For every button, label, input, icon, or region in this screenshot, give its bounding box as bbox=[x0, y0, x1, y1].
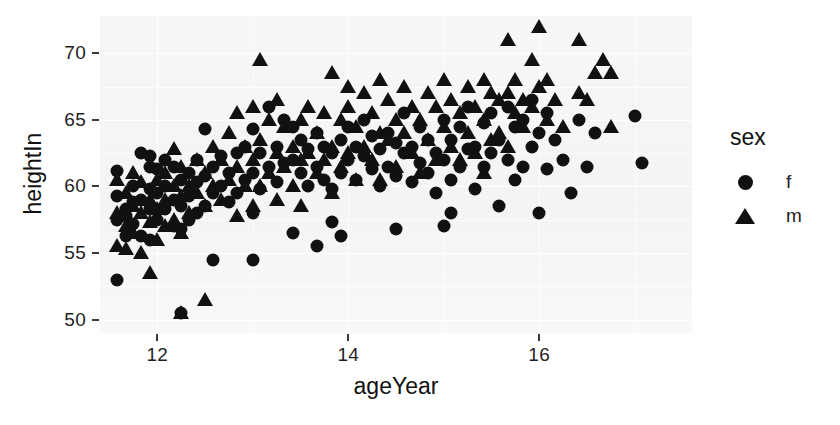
data-point-m bbox=[356, 138, 372, 152]
data-point-m bbox=[309, 125, 325, 139]
y-tick-mark bbox=[92, 119, 99, 121]
data-point-m bbox=[293, 198, 309, 212]
data-point-f bbox=[390, 223, 403, 236]
x-tick-label: 14 bbox=[337, 344, 359, 366]
data-point-f bbox=[445, 207, 458, 220]
data-point-m bbox=[166, 141, 182, 155]
data-point-f bbox=[310, 240, 323, 253]
data-point-m bbox=[157, 165, 173, 179]
data-point-m bbox=[587, 65, 603, 79]
data-point-m bbox=[388, 158, 404, 172]
data-point-m bbox=[189, 152, 205, 166]
data-point-m bbox=[324, 138, 340, 152]
data-point-m bbox=[309, 165, 325, 179]
data-point-m bbox=[340, 78, 356, 92]
x-axis-title: ageYear bbox=[100, 373, 692, 400]
data-point-m bbox=[269, 192, 285, 206]
data-point-m bbox=[603, 118, 619, 132]
data-point-f bbox=[557, 153, 570, 166]
data-point-m bbox=[118, 241, 134, 255]
data-point-m bbox=[404, 145, 420, 159]
plot-panel bbox=[100, 16, 692, 333]
data-point-m bbox=[245, 198, 261, 212]
data-point-m bbox=[364, 105, 380, 119]
data-point-f bbox=[493, 200, 506, 213]
gridline-y-minor bbox=[100, 286, 692, 287]
data-point-f bbox=[430, 187, 443, 200]
data-point-f bbox=[573, 113, 586, 126]
data-point-m bbox=[173, 225, 189, 239]
data-point-m bbox=[547, 92, 563, 106]
data-point-m bbox=[443, 92, 459, 106]
legend-title: sex bbox=[730, 124, 834, 151]
data-point-m bbox=[571, 85, 587, 99]
data-point-m bbox=[507, 72, 523, 86]
data-point-m bbox=[213, 192, 229, 206]
data-point-m bbox=[476, 112, 492, 126]
data-point-m bbox=[237, 178, 253, 192]
data-point-m bbox=[149, 232, 165, 246]
data-point-m bbox=[269, 92, 285, 106]
data-point-f bbox=[326, 216, 339, 229]
data-point-m bbox=[467, 145, 483, 159]
data-point-m bbox=[205, 178, 221, 192]
data-point-f bbox=[135, 147, 148, 160]
x-tick-label: 16 bbox=[528, 344, 550, 366]
data-point-m bbox=[460, 125, 476, 139]
triangle-marker-icon bbox=[728, 199, 762, 233]
data-point-m bbox=[420, 132, 436, 146]
data-point-f bbox=[334, 229, 347, 242]
y-tick-mark bbox=[92, 52, 99, 54]
legend-label-m: m bbox=[786, 205, 802, 227]
legend-label-f: f bbox=[786, 171, 791, 193]
data-point-m bbox=[412, 112, 428, 126]
data-point-m bbox=[269, 145, 285, 159]
data-point-f bbox=[206, 253, 219, 266]
data-point-m bbox=[109, 205, 125, 219]
data-point-m bbox=[276, 158, 292, 172]
data-point-m bbox=[261, 112, 277, 126]
data-point-f bbox=[286, 227, 299, 240]
y-tick-mark bbox=[92, 185, 99, 187]
data-point-m bbox=[293, 112, 309, 126]
data-point-m bbox=[539, 72, 555, 86]
data-point-m bbox=[524, 52, 540, 66]
legend-item-f[interactable]: f bbox=[728, 165, 834, 199]
x-tick-mark bbox=[538, 334, 540, 341]
data-point-m bbox=[524, 98, 540, 112]
data-point-f bbox=[540, 163, 553, 176]
data-point-m bbox=[205, 138, 221, 152]
data-point-m bbox=[125, 225, 141, 239]
data-point-f bbox=[469, 183, 482, 196]
data-point-f bbox=[302, 180, 315, 193]
legend-item-m[interactable]: m bbox=[728, 199, 834, 233]
data-point-f bbox=[636, 156, 649, 169]
data-point-m bbox=[237, 138, 253, 152]
data-point-m bbox=[173, 158, 189, 172]
data-point-f bbox=[501, 153, 514, 166]
data-point-m bbox=[340, 98, 356, 112]
data-point-f bbox=[628, 109, 641, 122]
data-point-m bbox=[388, 112, 404, 126]
data-point-f bbox=[516, 160, 529, 173]
data-point-m bbox=[229, 105, 245, 119]
data-point-m bbox=[436, 72, 452, 86]
data-point-f bbox=[445, 173, 458, 186]
data-point-m bbox=[348, 118, 364, 132]
data-point-f bbox=[580, 160, 593, 173]
data-point-m bbox=[285, 138, 301, 152]
y-tick-mark bbox=[92, 319, 99, 321]
data-point-m bbox=[133, 245, 149, 259]
data-point-m bbox=[221, 172, 237, 186]
data-point-m bbox=[396, 125, 412, 139]
data-point-m bbox=[324, 65, 340, 79]
data-point-m bbox=[555, 118, 571, 132]
data-point-m bbox=[221, 125, 237, 139]
circle-marker-icon bbox=[728, 165, 762, 199]
data-point-m bbox=[412, 165, 428, 179]
data-point-m bbox=[316, 105, 332, 119]
x-tick-label: 12 bbox=[146, 344, 168, 366]
data-point-m bbox=[539, 112, 555, 126]
data-point-f bbox=[199, 123, 212, 136]
data-point-m bbox=[531, 19, 547, 33]
